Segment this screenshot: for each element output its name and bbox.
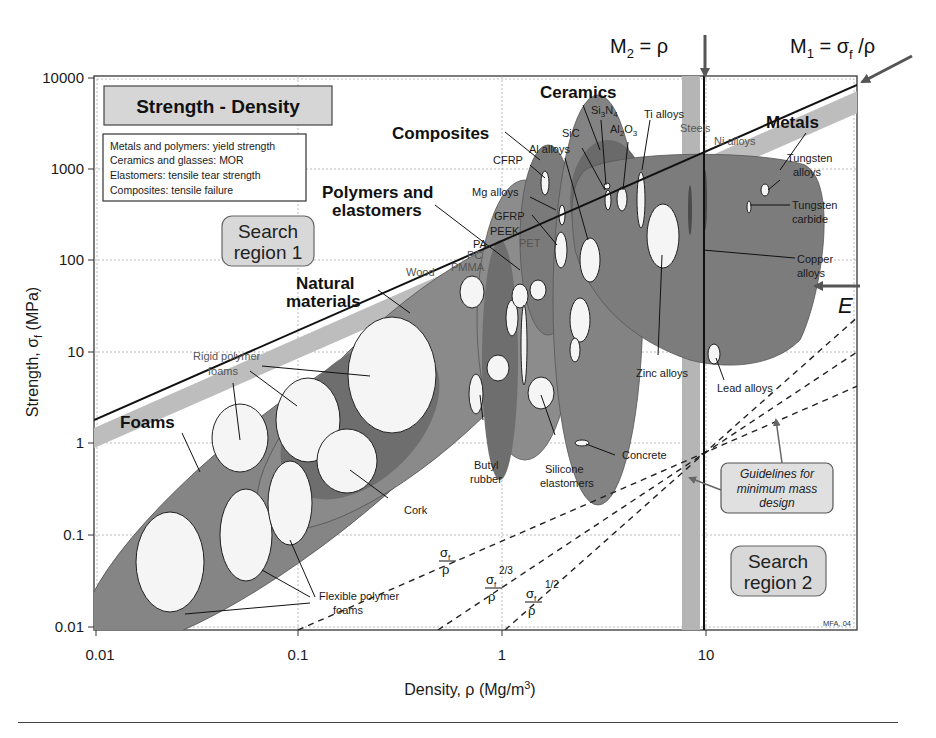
chart-title-box: Strength - Density <box>104 86 332 125</box>
svg-text:design: design <box>759 496 795 510</box>
bubble-wc <box>747 201 751 213</box>
bubble-poly-4 <box>512 284 528 308</box>
search-region-2: Search region 2 <box>731 546 826 596</box>
y-tick-label: 1000 <box>51 160 84 177</box>
search-region-1: Search region 1 <box>222 216 314 266</box>
svg-text:E: E <box>838 293 853 318</box>
label-tungsten-2: alloys <box>793 166 822 178</box>
bubble-poly-1 <box>487 355 509 381</box>
label-concrete: Concrete <box>622 449 667 461</box>
label-flex-1: Flexible polymer <box>319 590 399 602</box>
label-butyl-2: rubber <box>470 473 502 485</box>
label-copper-2: alloys <box>797 267 826 279</box>
y-tick-label: 1 <box>76 434 84 451</box>
label-lead: Lead alloys <box>717 382 773 394</box>
svg-text:2/3: 2/3 <box>499 565 513 576</box>
y-tick-label: 0.01 <box>55 618 84 635</box>
label-silicone-2: elastomers <box>540 477 594 489</box>
svg-text:region 1: region 1 <box>234 242 303 263</box>
bubble-gfrp <box>555 232 567 268</box>
strength-density-chart: 10000 1000 100 10 1 0.1 0.01 0.01 0.1 1 … <box>0 0 936 738</box>
label-ceramics: Ceramics <box>540 83 617 102</box>
bubble-cfrp <box>541 171 549 195</box>
label-polymers-2: elastomers <box>332 201 422 220</box>
bubble-flex-foam-3 <box>268 461 312 545</box>
bubble-al <box>580 238 600 282</box>
bubble-zinc <box>647 204 679 268</box>
label-ni: Ni alloys <box>714 135 756 147</box>
label-butyl-1: Butyl <box>474 459 498 471</box>
bubble-pc <box>521 305 527 385</box>
y-axis-title: Strength, σf (MPa) <box>24 287 44 417</box>
x-tick-label: 0.01 <box>85 646 114 663</box>
label-gfrp: GFRP <box>494 210 525 222</box>
x-tick-label: 1 <box>498 646 506 663</box>
label-metals: Metals <box>766 113 819 132</box>
svg-text:minimum mass: minimum mass <box>737 482 818 496</box>
note-line: Metals and polymers: yield strength <box>110 140 275 152</box>
svg-text:Search: Search <box>238 221 298 242</box>
bubble-tungsten <box>761 184 769 196</box>
label-sic: SiC <box>562 127 580 139</box>
x-axis-labels: 0.01 0.1 1 10 <box>85 646 714 663</box>
label-pet: PET <box>519 237 541 249</box>
label-zinc: Zinc alloys <box>636 367 688 379</box>
label-silicone-1: Silicone <box>545 463 584 475</box>
bubble-silicone <box>528 377 554 409</box>
svg-text:ρ: ρ <box>488 589 495 604</box>
notes-box: Metals and polymers: yield strength Cera… <box>103 134 306 201</box>
x-tick-label: 10 <box>698 646 715 663</box>
bubble-ceramic-small-2 <box>570 338 580 362</box>
label-natural-1: Natural <box>296 274 355 293</box>
label-rigid-2: foams <box>208 365 238 377</box>
label-cork: Cork <box>404 504 428 516</box>
chart-title: Strength - Density <box>136 96 300 117</box>
label-copper-1: Copper <box>797 253 833 265</box>
svg-text:ρ: ρ <box>528 603 535 618</box>
m1-index: M1 = σf /ρ <box>790 35 912 82</box>
svg-text:1/2: 1/2 <box>545 579 559 590</box>
m2-index: M2 = ρ <box>610 35 705 76</box>
y-tick-label: 10 <box>67 343 84 360</box>
label-tungsten-1: Tungsten <box>787 152 832 164</box>
page-rule <box>18 722 898 723</box>
svg-text:ρ: ρ <box>442 562 449 577</box>
label-rigid-1: Rigid polymer <box>193 350 261 362</box>
label-cfrp: CFRP <box>493 154 523 166</box>
bubble-sic <box>604 183 610 189</box>
bubble-poly-3 <box>530 280 546 300</box>
svg-text:Guidelines for: Guidelines for <box>740 467 815 481</box>
bubble-ceramic-small-1 <box>570 298 590 342</box>
label-steels: Steels <box>680 122 711 134</box>
m1-arrow-icon <box>862 56 912 82</box>
bubble-concrete <box>575 440 589 446</box>
note-line: Composites: tensile failure <box>110 184 233 196</box>
bubble-lead <box>708 344 720 364</box>
x-axis-title: Density, ρ (Mg/m3) <box>404 679 535 698</box>
bubble-flex-foam-2 <box>220 489 272 581</box>
label-polymers-1: Polymers and <box>322 183 434 202</box>
label-pmma: PMMA <box>451 261 485 273</box>
credit: MFA, 04 <box>823 619 851 628</box>
label-al: Al alloys <box>529 143 570 155</box>
note-line: Ceramics and glasses: MOR <box>110 154 244 166</box>
label-peek: PEEK <box>490 225 520 237</box>
y-tick-label: 0.1 <box>63 526 84 543</box>
x-tick-label: 0.1 <box>288 646 309 663</box>
label-pc: PC <box>467 249 482 261</box>
bubble-steels <box>688 185 692 235</box>
y-axis-labels: 10000 1000 100 10 1 0.1 0.01 <box>42 69 84 635</box>
y-tick-label: 10000 <box>42 69 84 86</box>
y-tick-label: 100 <box>59 251 84 268</box>
label-wc-1: Tungsten <box>792 199 837 211</box>
label-composites: Composites <box>392 124 489 143</box>
label-wood: Wood <box>406 266 435 278</box>
svg-text:Search: Search <box>748 551 808 572</box>
label-natural-2: materials <box>286 292 361 311</box>
label-foams: Foams <box>120 413 175 432</box>
label-mg: Mg alloys <box>472 186 519 198</box>
label-flex-2: foams <box>333 604 363 616</box>
bubble-wood <box>460 276 484 308</box>
note-line: Elastomers: tensile tear strength <box>110 169 261 181</box>
svg-text:M2 = ρ: M2 = ρ <box>610 35 668 61</box>
